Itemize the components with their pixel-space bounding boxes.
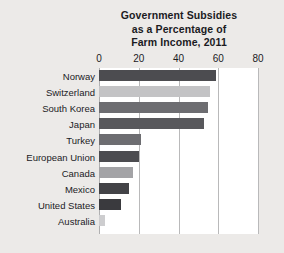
x-tick-label-80: 80 [252, 53, 263, 65]
chart-title: Government Subsidies as a Percentage of … [96, 9, 262, 50]
bar-japan [99, 118, 204, 129]
x-tick-label-20: 20 [133, 53, 144, 65]
bar-norway [99, 70, 216, 81]
bar-united-states [99, 199, 121, 210]
x-tick-label-60: 60 [213, 53, 224, 65]
bar-switzerland [99, 86, 210, 97]
chart-title-line-1: Government Subsidies [96, 9, 262, 23]
category-label-european-union: European Union [0, 152, 95, 163]
category-label-mexico: Mexico [0, 184, 95, 195]
chart-title-line-3: Farm Income, 2011 [96, 36, 262, 50]
category-label-norway: Norway [0, 71, 95, 82]
bar-european-union [99, 151, 139, 162]
category-axis-labels: NorwaySwitzerlandSouth KoreaJapanTurkeyE… [0, 68, 95, 234]
bar-series [99, 68, 284, 234]
category-label-switzerland: Switzerland [0, 87, 95, 98]
chart-figure: Government Subsidies as a Percentage of … [0, 0, 284, 253]
x-tick-label-40: 40 [173, 53, 184, 65]
category-label-south-korea: South Korea [0, 103, 95, 114]
x-tick-label-0: 0 [96, 53, 102, 65]
category-label-canada: Canada [0, 168, 95, 179]
bar-south-korea [99, 102, 208, 113]
bar-turkey [99, 134, 141, 145]
category-label-australia: Australia [0, 216, 95, 227]
bar-canada [99, 167, 133, 178]
bar-australia [99, 215, 105, 226]
category-label-japan: Japan [0, 119, 95, 130]
bar-mexico [99, 183, 129, 194]
chart-title-line-2: as a Percentage of [96, 23, 262, 37]
category-label-united-states: United States [0, 200, 95, 211]
category-label-turkey: Turkey [0, 135, 95, 146]
